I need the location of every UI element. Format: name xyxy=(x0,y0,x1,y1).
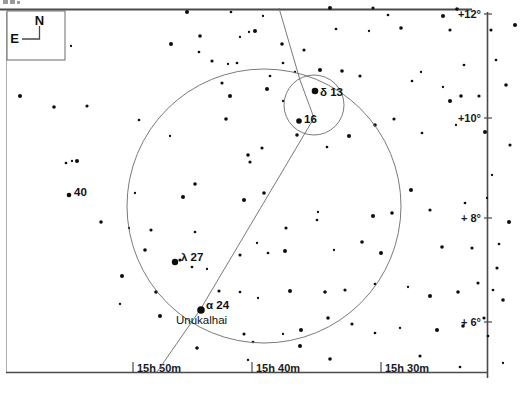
background-star xyxy=(253,29,257,33)
named-star-label: 16 xyxy=(304,113,317,125)
background-star xyxy=(134,192,136,194)
background-star xyxy=(298,344,302,348)
background-star xyxy=(326,146,329,149)
background-star xyxy=(220,81,223,84)
background-star xyxy=(328,357,332,361)
background-star xyxy=(399,26,403,30)
background-star xyxy=(302,48,305,51)
background-star xyxy=(420,71,422,73)
background-star xyxy=(387,14,390,17)
background-star xyxy=(442,86,444,88)
background-star xyxy=(206,268,208,270)
background-star xyxy=(495,266,498,269)
background-star xyxy=(399,327,401,329)
background-star xyxy=(459,366,462,369)
background-star xyxy=(428,294,432,298)
background-star xyxy=(409,188,413,192)
background-star xyxy=(464,202,467,205)
background-star xyxy=(358,74,361,77)
dec-tick-label-1: +10° xyxy=(458,112,481,124)
background-star xyxy=(379,251,383,255)
background-star xyxy=(210,59,213,62)
background-star xyxy=(257,297,259,299)
background-star xyxy=(501,298,505,302)
background-star xyxy=(282,62,285,65)
named-star-label: 40 xyxy=(74,186,87,198)
named-star-proper-name: Unukalhai xyxy=(176,314,227,326)
background-star xyxy=(75,159,79,163)
background-star xyxy=(242,332,245,335)
background-star xyxy=(470,246,473,249)
background-star xyxy=(418,354,421,357)
background-star xyxy=(198,51,201,54)
background-star xyxy=(149,228,152,231)
background-star xyxy=(191,266,194,269)
background-star xyxy=(265,87,269,91)
named-star-label: δ 13 xyxy=(320,86,343,98)
background-star xyxy=(411,80,414,83)
star-chart-canvas: +12°+10°+ 8°+ 6° 15h 50m15h 40m15h 30m N… xyxy=(0,0,523,397)
background-star xyxy=(71,160,73,162)
background-star xyxy=(456,290,460,294)
background-star xyxy=(248,160,251,163)
background-star xyxy=(448,28,451,31)
background-star xyxy=(318,68,322,72)
background-star xyxy=(498,243,501,246)
background-star xyxy=(224,117,228,121)
background-star xyxy=(70,45,72,47)
dec-tick-label-0: +12° xyxy=(458,8,481,20)
right-ascension-axis: 15h 50m15h 40m15h 30m xyxy=(133,362,429,374)
background-star xyxy=(247,359,249,361)
background-star xyxy=(448,99,452,103)
background-star xyxy=(228,94,232,98)
background-star xyxy=(120,274,124,278)
background-star xyxy=(371,6,374,9)
named-star-marker xyxy=(67,193,72,198)
background-star xyxy=(504,83,508,87)
background-star xyxy=(280,42,284,46)
background-star xyxy=(269,75,272,78)
background-star xyxy=(513,23,517,27)
background-star xyxy=(138,119,141,122)
background-star xyxy=(350,322,353,325)
background-star xyxy=(421,132,424,135)
background-star xyxy=(256,242,258,244)
background-star xyxy=(347,134,351,138)
background-star xyxy=(119,303,121,305)
background-star xyxy=(282,333,284,335)
background-star xyxy=(326,316,330,320)
background-star xyxy=(440,245,444,249)
background-star xyxy=(492,289,495,292)
star-chart: +12°+10°+ 8°+ 6° 15h 50m15h 40m15h 30m N… xyxy=(0,0,523,397)
background-star xyxy=(236,62,239,65)
background-star xyxy=(483,130,487,134)
background-star xyxy=(239,36,241,38)
background-star xyxy=(459,94,463,98)
background-star xyxy=(195,346,199,350)
background-star xyxy=(374,332,377,335)
background-star xyxy=(158,314,162,318)
background-star xyxy=(441,14,445,18)
background-star xyxy=(299,328,303,332)
background-star xyxy=(217,289,220,292)
background-star xyxy=(360,240,364,244)
background-star xyxy=(227,63,229,65)
background-star xyxy=(461,324,465,328)
background-star xyxy=(371,214,375,218)
background-star xyxy=(284,226,287,229)
background-star xyxy=(502,362,504,364)
background-star xyxy=(262,15,264,17)
background-star xyxy=(335,28,338,31)
background-star xyxy=(169,42,173,46)
named-star-marker xyxy=(172,259,178,265)
background-star xyxy=(242,198,246,202)
background-star xyxy=(428,208,431,211)
ra-tick-label-1: 15h 40m xyxy=(256,362,300,374)
background-star xyxy=(455,124,457,126)
ra-tick-label-0: 15h 50m xyxy=(137,362,181,374)
background-star xyxy=(333,249,335,251)
background-star xyxy=(246,153,250,157)
background-star xyxy=(181,195,185,199)
background-star xyxy=(260,146,263,149)
background-star xyxy=(18,94,22,98)
